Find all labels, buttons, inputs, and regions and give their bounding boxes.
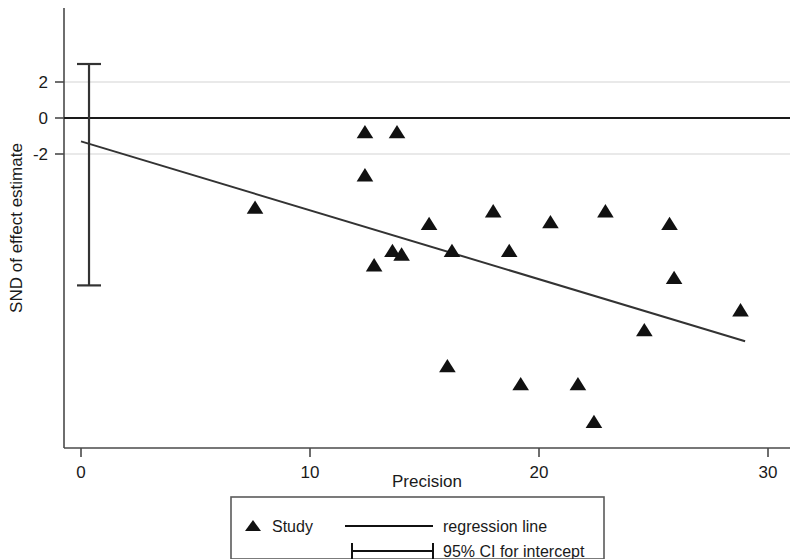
legend-regression-label: regression line — [443, 518, 547, 535]
legend-study-label: Study — [272, 518, 313, 535]
y-axis-title: SND of effect estimate — [7, 143, 26, 313]
x-tick-label: 10 — [301, 463, 320, 482]
study-point-marker — [666, 271, 683, 284]
study-point-marker — [366, 258, 383, 271]
study-point-marker — [597, 204, 614, 217]
legend-ci-label: 95% CI for intercept — [443, 543, 585, 559]
y-axis-ticks: 20-2 — [33, 73, 64, 164]
x-tick-label: 30 — [759, 463, 778, 482]
regression-line — [81, 141, 745, 341]
study-point-marker — [247, 201, 264, 214]
study-point-marker — [570, 377, 587, 390]
study-point-marker — [636, 323, 653, 336]
study-point-marker — [357, 125, 374, 138]
y-tick-label: -2 — [33, 145, 48, 164]
study-point-marker — [421, 217, 438, 230]
study-point-marker — [485, 204, 502, 217]
legend-box: Study regression line 95% CI for interce… — [231, 497, 604, 559]
eggers-funnel-plot-svg: 20-2 0102030 Precision SND of effect est… — [0, 0, 794, 559]
study-point-marker — [439, 359, 456, 372]
study-point-marker — [501, 244, 518, 257]
study-point-marker — [389, 125, 406, 138]
study-point-marker — [661, 217, 678, 230]
study-point-marker — [512, 377, 529, 390]
y-tick-label: 0 — [39, 109, 48, 128]
x-tick-label: 20 — [530, 463, 549, 482]
y-tick-label: 2 — [39, 73, 48, 92]
x-axis-title: Precision — [392, 472, 462, 491]
x-tick-label: 0 — [76, 463, 85, 482]
study-data-points — [247, 125, 749, 428]
study-point-marker — [542, 215, 559, 228]
study-point-marker — [357, 168, 374, 181]
study-point-marker — [732, 303, 749, 316]
confidence-interval-bar — [77, 64, 101, 285]
funnel-plot-figure: 20-2 0102030 Precision SND of effect est… — [0, 0, 794, 559]
study-point-marker — [586, 415, 603, 428]
